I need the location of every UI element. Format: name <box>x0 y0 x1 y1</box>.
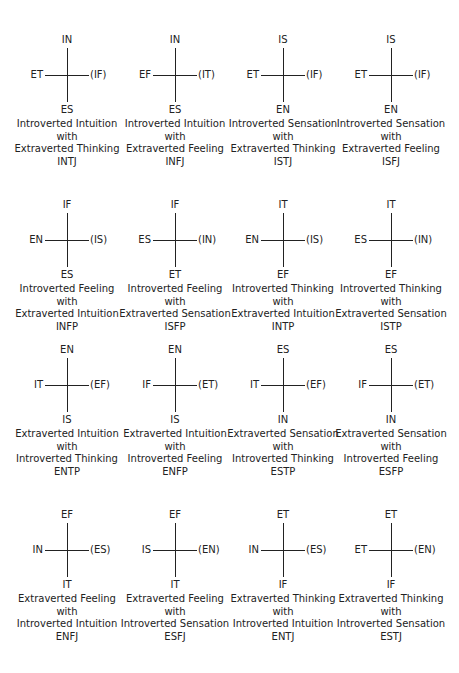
bottom-function-label: IN <box>337 414 445 426</box>
with-text: with <box>327 131 455 144</box>
horizontal-axis-line <box>369 240 413 241</box>
top-function-label: IT <box>229 199 337 211</box>
type-diagram-enfj: EF IN (ES) IT Extraverted Feeling with I… <box>13 509 121 669</box>
right-function-label: (EF) <box>306 379 326 391</box>
right-function-label: (ET) <box>414 379 434 391</box>
type-diagram-entp: EN IT (EF) IS Extraverted Intuition with… <box>13 344 121 504</box>
type-diagram-intp: IT EN (IS) EF Introverted Thinking with … <box>229 199 337 359</box>
top-function-label: IF <box>13 199 121 211</box>
top-function-label: EF <box>121 509 229 521</box>
right-function-label: (IS) <box>306 234 323 246</box>
auxiliary-function-text: Introverted Sensation <box>327 618 455 631</box>
right-function-label: (IN) <box>198 234 216 246</box>
right-function-label: (EN) <box>414 544 436 556</box>
top-function-label: EN <box>13 344 121 356</box>
type-diagram-entj: ET IN (ES) IF Extraverted Thinking with … <box>229 509 337 669</box>
horizontal-axis-line <box>261 550 305 551</box>
top-function-label: IF <box>121 199 229 211</box>
horizontal-axis-line <box>153 75 197 76</box>
top-function-label: IT <box>337 199 445 211</box>
right-function-label: (ES) <box>90 544 110 556</box>
horizontal-axis-line <box>45 550 89 551</box>
left-function-label: ET <box>31 69 43 81</box>
horizontal-axis-line <box>261 75 305 76</box>
top-function-label: ES <box>337 344 445 356</box>
bottom-function-label: EF <box>229 269 337 281</box>
bottom-function-label: IS <box>13 414 121 426</box>
right-function-label: (IN) <box>414 234 432 246</box>
with-text: with <box>327 441 455 454</box>
type-caption: Introverted Sensation with Extraverted F… <box>327 118 455 168</box>
type-diagram-esfp: ES IF (ET) IN Extraverted Sensation with… <box>337 344 445 504</box>
horizontal-axis-line <box>261 385 305 386</box>
with-text: with <box>327 296 455 309</box>
top-function-label: IN <box>13 34 121 46</box>
type-code: ESFP <box>327 466 455 479</box>
top-function-label: ET <box>229 509 337 521</box>
top-function-label: EF <box>13 509 121 521</box>
left-function-label: IT <box>34 379 43 391</box>
left-function-label: ET <box>355 544 367 556</box>
horizontal-axis-line <box>45 240 89 241</box>
top-function-label: IN <box>121 34 229 46</box>
auxiliary-function-text: Extraverted Feeling <box>327 143 455 156</box>
right-function-label: (IF) <box>414 69 431 81</box>
dominant-function-text: Extraverted Sensation <box>327 428 455 441</box>
horizontal-axis-line <box>153 385 197 386</box>
left-function-label: ET <box>355 69 367 81</box>
dominant-function-text: Introverted Thinking <box>327 283 455 296</box>
right-function-label: (IS) <box>90 234 107 246</box>
right-function-label: (EF) <box>90 379 110 391</box>
type-diagram-enfp: EN IF (ET) IS Extraverted Intuition with… <box>121 344 229 504</box>
top-function-label: IS <box>337 34 445 46</box>
with-text: with <box>327 606 455 619</box>
top-function-label: ET <box>337 509 445 521</box>
top-function-label: ES <box>229 344 337 356</box>
type-diagram-intj: IN ET (IF) ES Introverted Intuition with… <box>13 34 121 194</box>
type-diagram-estp: ES IT (EF) IN Extraverted Sensation with… <box>229 344 337 504</box>
horizontal-axis-line <box>369 550 413 551</box>
type-code: ISTP <box>327 321 455 334</box>
left-function-label: IF <box>142 379 151 391</box>
auxiliary-function-text: Introverted Feeling <box>327 453 455 466</box>
horizontal-axis-line <box>153 240 197 241</box>
left-function-label: IT <box>250 379 259 391</box>
right-function-label: (IT) <box>198 69 215 81</box>
bottom-function-label: IT <box>121 579 229 591</box>
left-function-label: IF <box>358 379 367 391</box>
right-function-label: (ES) <box>306 544 326 556</box>
left-function-label: IS <box>142 544 151 556</box>
type-diagram-istj: IS ET (IF) EN Introverted Sensation with… <box>229 34 337 194</box>
bottom-function-label: ES <box>13 104 121 116</box>
bottom-function-label: ES <box>13 269 121 281</box>
bottom-function-label: ET <box>121 269 229 281</box>
type-caption: Extraverted Thinking with Introverted Se… <box>327 593 455 643</box>
type-caption: Extraverted Sensation with Introverted F… <box>327 428 455 478</box>
right-function-label: (IF) <box>306 69 323 81</box>
horizontal-axis-line <box>369 385 413 386</box>
type-diagram-esfj: EF IS (EN) IT Extraverted Feeling with I… <box>121 509 229 669</box>
bottom-function-label: EN <box>337 104 445 116</box>
auxiliary-function-text: Extraverted Sensation <box>327 308 455 321</box>
top-function-label: IS <box>229 34 337 46</box>
left-function-label: IN <box>33 544 43 556</box>
bottom-function-label: IF <box>229 579 337 591</box>
bottom-function-label: EF <box>337 269 445 281</box>
bottom-function-label: IF <box>337 579 445 591</box>
type-diagram-istp: IT ES (IN) EF Introverted Thinking with … <box>337 199 445 359</box>
bottom-function-label: IS <box>121 414 229 426</box>
dominant-function-text: Extraverted Thinking <box>327 593 455 606</box>
horizontal-axis-line <box>45 75 89 76</box>
dominant-function-text: Introverted Sensation <box>327 118 455 131</box>
type-diagram-infp: IF EN (IS) ES Introverted Feeling with E… <box>13 199 121 359</box>
type-code: ISFJ <box>327 156 455 169</box>
left-function-label: IN <box>249 544 259 556</box>
type-diagram-isfp: IF ES (IN) ET Introverted Feeling with E… <box>121 199 229 359</box>
top-function-label: EN <box>121 344 229 356</box>
bottom-function-label: IN <box>229 414 337 426</box>
bottom-function-label: EN <box>229 104 337 116</box>
left-function-label: ES <box>138 234 151 246</box>
horizontal-axis-line <box>45 385 89 386</box>
right-function-label: (ET) <box>198 379 218 391</box>
type-diagram-estj: ET ET (EN) IF Extraverted Thinking with … <box>337 509 445 669</box>
